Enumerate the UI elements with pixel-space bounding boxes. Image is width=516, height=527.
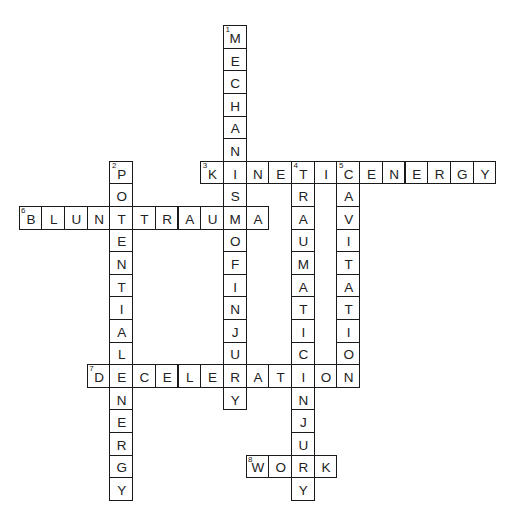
crossword-cell[interactable]: H (223, 93, 247, 117)
crossword-cell[interactable]: O (314, 364, 338, 388)
cell-letter: M (229, 209, 241, 227)
crossword-cell[interactable]: 3K (200, 161, 224, 185)
crossword-cell[interactable]: U (223, 342, 247, 366)
crossword-cell[interactable]: L (41, 206, 65, 230)
crossword-cell[interactable]: V (336, 206, 360, 230)
crossword-cell[interactable]: E (223, 48, 247, 72)
crossword-cell[interactable]: L (109, 342, 133, 366)
crossword-cell[interactable]: N (291, 387, 315, 411)
cell-letter: U (297, 231, 308, 249)
crossword-cell[interactable]: A (291, 274, 315, 298)
crossword-cell[interactable]: G (450, 161, 474, 185)
crossword-cell[interactable]: A (336, 183, 360, 207)
crossword-cell[interactable]: N (109, 387, 133, 411)
crossword-cell[interactable]: Y (223, 387, 247, 411)
crossword-cell[interactable]: U (200, 206, 224, 230)
crossword-cell[interactable]: K (314, 455, 338, 479)
crossword-cell[interactable]: A (246, 206, 270, 230)
crossword-cell[interactable]: U (291, 229, 315, 253)
clue-number: 1 (225, 25, 229, 35)
crossword-cell[interactable]: 7D (87, 364, 111, 388)
crossword-cell[interactable]: 6B (19, 206, 43, 230)
crossword-cell[interactable]: N (223, 138, 247, 162)
crossword-cell[interactable]: A (291, 206, 315, 230)
crossword-cell[interactable]: J (291, 409, 315, 433)
crossword-cell[interactable]: R (109, 432, 133, 456)
crossword-cell[interactable]: C (291, 342, 315, 366)
crossword-cell[interactable]: T (291, 296, 315, 320)
cell-letter: J (231, 322, 239, 340)
cell-letter: M (229, 28, 241, 46)
crossword-cell[interactable]: E (268, 161, 292, 185)
cell-letter: I (346, 322, 351, 340)
crossword-cell[interactable]: U (64, 206, 88, 230)
crossword-cell[interactable]: T (336, 251, 360, 275)
crossword-cell[interactable]: I (336, 229, 360, 253)
crossword-cell[interactable]: A (246, 364, 270, 388)
cell-letter: A (252, 367, 262, 385)
crossword-cell[interactable]: U (291, 432, 315, 456)
crossword-cell[interactable]: I (291, 319, 315, 343)
crossword-cell[interactable]: A (223, 116, 247, 140)
cell-letter: R (229, 367, 240, 385)
crossword-cell[interactable]: M (223, 206, 247, 230)
crossword-cell[interactable]: T (268, 364, 292, 388)
crossword-cell[interactable]: I (223, 274, 247, 298)
crossword-cell[interactable]: A (336, 274, 360, 298)
crossword-cell[interactable]: 4T (291, 161, 315, 185)
crossword-cell[interactable]: O (336, 342, 360, 366)
crossword-cell[interactable]: R (291, 455, 315, 479)
crossword-cell[interactable]: E (405, 161, 429, 185)
crossword-cell[interactable]: O (223, 229, 247, 253)
crossword-cell[interactable]: R (291, 183, 315, 207)
cell-letter: N (116, 390, 127, 408)
crossword-cell[interactable]: E (155, 364, 179, 388)
crossword-cell[interactable]: 8W (246, 455, 270, 479)
crossword-cell[interactable]: A (109, 319, 133, 343)
crossword-cell[interactable]: N (246, 161, 270, 185)
crossword-cell[interactable]: T (109, 274, 133, 298)
crossword-cell[interactable]: Y (473, 161, 497, 185)
crossword-cell[interactable]: N (87, 206, 111, 230)
crossword-cell[interactable]: E (109, 364, 133, 388)
crossword-cell[interactable]: S (223, 183, 247, 207)
crossword-cell[interactable]: N (336, 364, 360, 388)
crossword-cell[interactable]: T (336, 296, 360, 320)
crossword-cell[interactable]: R (223, 364, 247, 388)
crossword-cell[interactable]: N (109, 251, 133, 275)
crossword-cell[interactable]: M (291, 251, 315, 275)
crossword-cell[interactable]: 2P (109, 161, 133, 185)
crossword-cell[interactable]: O (109, 183, 133, 207)
cell-letter: L (117, 344, 126, 362)
crossword-cell[interactable]: I (223, 161, 247, 185)
crossword-cell[interactable]: I (314, 161, 338, 185)
crossword-cell[interactable]: C (223, 70, 247, 94)
crossword-cell[interactable]: Y (291, 477, 315, 501)
crossword-cell[interactable]: Y (109, 477, 133, 501)
crossword-cell[interactable]: N (382, 161, 406, 185)
crossword-cell[interactable]: R (155, 206, 179, 230)
crossword-cell[interactable]: E (359, 161, 383, 185)
crossword-cell[interactable]: I (109, 296, 133, 320)
crossword-cell[interactable]: A (178, 206, 202, 230)
crossword-cell[interactable]: F (223, 251, 247, 275)
crossword-cell[interactable]: E (109, 229, 133, 253)
crossword-cell[interactable]: J (223, 319, 247, 343)
cell-letter: N (116, 254, 127, 272)
crossword-cell[interactable]: R (427, 161, 451, 185)
crossword-cell[interactable]: G (109, 455, 133, 479)
cell-letter: A (230, 118, 240, 136)
crossword-cell[interactable]: E (109, 409, 133, 433)
crossword-cell[interactable]: N (223, 296, 247, 320)
crossword-cell[interactable]: E (200, 364, 224, 388)
crossword-cell[interactable]: 5C (336, 161, 360, 185)
crossword-cell[interactable]: I (336, 319, 360, 343)
crossword-cell[interactable]: C (132, 364, 156, 388)
crossword-cell[interactable]: L (178, 364, 202, 388)
crossword-cell[interactable]: I (291, 364, 315, 388)
crossword-cell[interactable]: T (109, 206, 133, 230)
cell-letter: R (297, 457, 308, 475)
crossword-cell[interactable]: O (268, 455, 292, 479)
crossword-cell[interactable]: 1M (223, 25, 247, 49)
crossword-cell[interactable]: T (132, 206, 156, 230)
